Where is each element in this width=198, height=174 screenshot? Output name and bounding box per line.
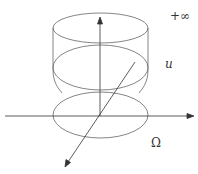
y-axis-arrow-icon bbox=[65, 160, 71, 168]
plus-infinity-label: +∞ bbox=[170, 10, 190, 22]
right-side bbox=[139, 28, 148, 93]
omega-label: Ω bbox=[151, 137, 161, 149]
u-label: u bbox=[165, 58, 173, 70]
base-ellipse-omega bbox=[53, 92, 148, 138]
left-side bbox=[53, 28, 62, 93]
cylinder-diagram bbox=[0, 0, 198, 174]
x-axis-arrow-icon bbox=[187, 114, 194, 119]
y-axis bbox=[68, 62, 135, 162]
z-axis-arrow-icon bbox=[98, 17, 103, 24]
diagram: +∞ u Ω bbox=[0, 0, 198, 174]
middle-ellipse bbox=[53, 45, 148, 90]
